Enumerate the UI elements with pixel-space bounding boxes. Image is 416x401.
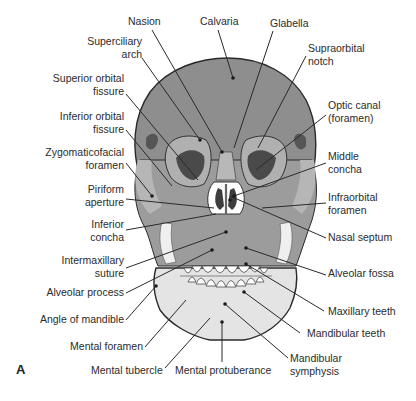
label-text: concha (90, 231, 124, 244)
label-text: arch (87, 48, 142, 61)
label-text: concha (328, 163, 362, 176)
label-infraorbital-foramen: Infraorbital foramen (328, 191, 378, 216)
label-text: Piriform (85, 183, 124, 196)
label-text: Mandibular teeth (307, 327, 385, 340)
label-optic-canal: Optic canal (foramen) (328, 99, 381, 124)
label-text: Mental tubercle (91, 364, 163, 377)
label-calvaria: Calvaria (200, 15, 239, 28)
label-text: Zygomaticofacial (45, 146, 124, 159)
label-text: Superciliary (87, 35, 142, 48)
label-angle-of-mandible: Angle of mandible (40, 313, 124, 326)
label-zygomaticofacial-foramen: Zygomaticofacial foramen (45, 146, 124, 171)
label-text: symphysis (290, 365, 342, 378)
label-text: Optic canal (328, 99, 381, 112)
label-text: Glabella (270, 17, 309, 30)
label-text: fissure (53, 85, 124, 98)
label-mental-tubercle: Mental tubercle (91, 364, 163, 377)
label-mandibular-teeth: Mandibular teeth (307, 327, 385, 340)
label-text: fissure (60, 123, 124, 136)
label-text: Maxillary teeth (328, 305, 396, 318)
label-text: Intermaxillary (62, 254, 124, 267)
label-nasal-septum: Nasal septum (328, 231, 392, 244)
label-text: Infraorbital (328, 191, 378, 204)
label-text: Mental foramen (70, 340, 143, 353)
label-superior-orbital-fissure: Superior orbital fissure (53, 72, 124, 97)
label-text: Alveolar process (46, 286, 124, 299)
label-intermaxillary-suture: Intermaxillary suture (62, 254, 124, 279)
label-text: Alveolar fossa (328, 267, 394, 280)
label-maxillary-teeth: Maxillary teeth (328, 305, 396, 318)
label-middle-concha: Middle concha (328, 150, 362, 175)
label-inferior-concha: Inferior concha (90, 218, 124, 243)
label-alveolar-process: Alveolar process (46, 286, 124, 299)
label-inferior-orbital-fissure: Inferior orbital fissure (60, 110, 124, 135)
label-text: aperture (85, 196, 124, 209)
label-supraorbital-notch: Supraorbital notch (308, 42, 365, 67)
skull-anterior-figure: Nasion Calvaria Glabella Superciliary ar… (0, 0, 416, 401)
label-nasion: Nasion (128, 15, 161, 28)
label-alveolar-fossa: Alveolar fossa (328, 267, 394, 280)
label-text: Angle of mandible (40, 313, 124, 326)
label-mandibular-symphysis: Mandibular symphysis (290, 352, 342, 377)
label-text: foramen (328, 204, 378, 217)
label-text: (foramen) (328, 112, 381, 125)
label-text: suture (62, 267, 124, 280)
label-text: Nasion (128, 15, 161, 28)
label-text: Superior orbital (53, 72, 124, 85)
label-mental-foramen: Mental foramen (70, 340, 143, 353)
label-superciliary-arch: Superciliary arch (87, 35, 142, 60)
label-glabella: Glabella (270, 17, 309, 30)
label-text: notch (308, 55, 365, 68)
label-text: Nasal septum (328, 231, 392, 244)
panel-letter: A (16, 362, 25, 377)
label-text: Middle (328, 150, 362, 163)
label-text: foramen (45, 159, 124, 172)
label-piriform-aperture: Piriform aperture (85, 183, 124, 208)
label-text: Mandibular (290, 352, 342, 365)
label-mental-protuberance: Mental protuberance (175, 364, 271, 377)
label-text: Supraorbital (308, 42, 365, 55)
label-text: Calvaria (200, 15, 239, 28)
label-text: Inferior (90, 218, 124, 231)
label-text: Inferior orbital (60, 110, 124, 123)
label-text: Mental protuberance (175, 364, 271, 377)
